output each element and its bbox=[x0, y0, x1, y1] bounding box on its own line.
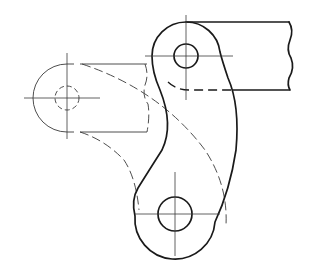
lever-outline bbox=[134, 22, 237, 259]
bar-break-line bbox=[288, 22, 292, 90]
technical-drawing bbox=[0, 0, 315, 269]
phantom-sweep-lower bbox=[80, 132, 139, 210]
lever-link bbox=[134, 22, 237, 259]
phantom-break-line bbox=[144, 64, 149, 132]
bar-hidden-edge bbox=[168, 82, 233, 90]
phantom-position bbox=[24, 53, 226, 225]
phantom-sweep-upper bbox=[82, 64, 226, 225]
